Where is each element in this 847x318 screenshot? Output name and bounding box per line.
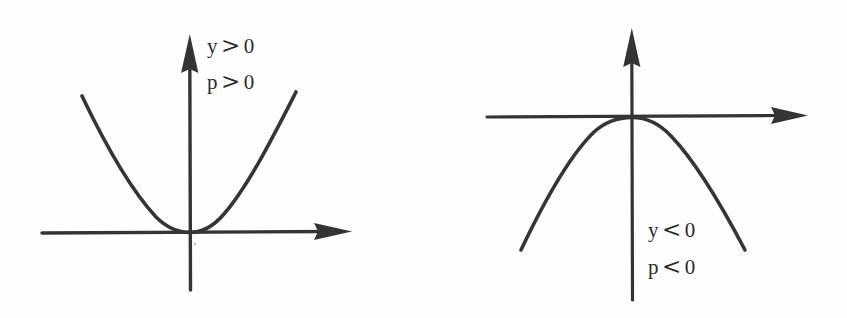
label-y-less-than-zero: y<0	[648, 218, 696, 241]
label-y-pos-variable: y	[207, 34, 218, 58]
upward-parabola-panel: y>0 p>0	[0, 0, 424, 318]
less-than-icon: <	[659, 253, 685, 279]
label-p-pos-variable: p	[207, 70, 218, 94]
label-y-pos-value: 0	[244, 34, 255, 58]
label-y-greater-than-zero: y>0	[207, 34, 255, 57]
x-axis-arrow-icon	[314, 223, 352, 240]
parabola-sign-figure: y>0 p>0 y<0 p<0	[0, 0, 847, 318]
greater-than-icon: >	[218, 32, 244, 58]
label-p-pos-value: 0	[244, 70, 255, 94]
label-y-neg-value: 0	[685, 218, 696, 242]
downward-parabola-panel: y<0 p<0	[423, 0, 847, 318]
label-p-neg-variable: p	[648, 255, 659, 279]
label-p-neg-value: 0	[685, 255, 696, 279]
scan-speck	[194, 243, 196, 245]
greater-than-icon: >	[218, 68, 244, 94]
x-axis-arrow-icon	[771, 107, 808, 124]
y-axis-line	[632, 52, 633, 300]
label-p-less-than-zero: p<0	[648, 255, 696, 278]
y-axis-arrow-icon	[623, 28, 640, 67]
y-axis-arrow-icon	[181, 34, 198, 73]
less-than-icon: <	[659, 216, 685, 242]
label-y-neg-variable: y	[648, 218, 659, 242]
y-axis-line	[190, 58, 191, 290]
downward-parabola-plot	[423, 0, 847, 318]
label-p-greater-than-zero: p>0	[207, 70, 255, 93]
